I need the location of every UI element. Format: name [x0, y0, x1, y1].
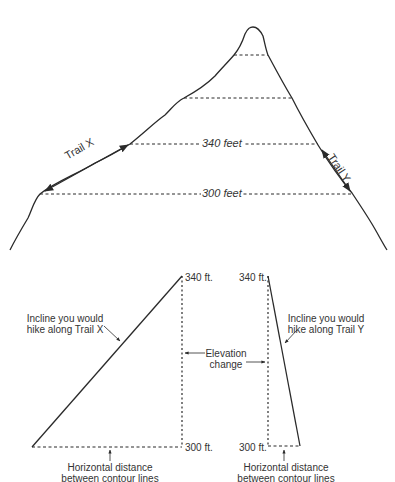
horizontal-x-line1: Horizontal distance	[50, 462, 170, 473]
contour-label-340: 340 feet	[201, 138, 243, 149]
trail-x-incline-line	[32, 276, 182, 447]
mountain-outline	[10, 27, 387, 250]
profile-y-bottom-label: 300 ft.	[239, 442, 267, 453]
elevation-change-line2: change	[203, 359, 249, 370]
profile-x-top-label: 340 ft.	[185, 272, 213, 283]
incline-x-line1: Incline you would	[25, 313, 105, 324]
incline-x-pointer	[104, 326, 120, 341]
incline-y-label: Incline you would hike along Trail Y	[285, 313, 367, 335]
horizontal-y-line1: Horizontal distance	[226, 462, 346, 473]
trail-x-arrow	[45, 145, 128, 191]
horizontal-x-label: Horizontal distance between contour line…	[50, 462, 170, 482]
incline-x-line2: hike along Trail X	[25, 324, 105, 335]
profile-y-top-label: 340 ft.	[239, 272, 267, 283]
incline-x-label: Incline you would hike along Trail X	[25, 313, 105, 335]
horizontal-y-line2: between contour lines	[226, 473, 346, 482]
contour-label-300: 300 feet	[201, 188, 243, 199]
mountain-diagram	[0, 0, 395, 482]
profile-x-bottom-label: 300 ft.	[185, 442, 213, 453]
horizontal-x-line2: between contour lines	[50, 473, 170, 482]
elevation-change-label: Elevation change	[203, 348, 249, 370]
elevation-change-line1: Elevation	[203, 348, 249, 359]
horizontal-y-label: Horizontal distance between contour line…	[226, 462, 346, 482]
trail-y-incline-line	[268, 276, 300, 446]
incline-y-line2: hike along Trail Y	[285, 324, 367, 335]
incline-y-line1: Incline you would	[285, 313, 367, 324]
